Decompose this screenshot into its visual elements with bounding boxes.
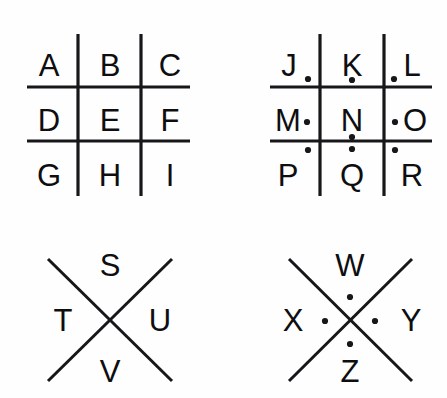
grid-dot-6 — [392, 119, 398, 125]
cipher-letter-b: B — [100, 48, 121, 83]
cipher-letter-w: W — [335, 248, 365, 283]
grid-dot-2 — [349, 77, 355, 83]
cipher-letter-i: I — [166, 158, 175, 193]
cipher-letter-o: O — [403, 103, 427, 138]
cipher-letter-j: J — [281, 48, 297, 83]
cipher-letter-h: H — [99, 158, 121, 193]
cipher-letter-m: M — [275, 103, 301, 138]
cross-dot-4 — [347, 341, 353, 347]
cross-dot-2 — [322, 318, 328, 324]
cipher-letter-c: C — [159, 48, 181, 83]
cipher-letter-e: E — [100, 103, 121, 138]
grid-plain-group: ABCDEFGHI — [27, 34, 190, 196]
cipher-letter-n: N — [341, 103, 363, 138]
cipher-letter-r: R — [401, 158, 423, 193]
grid-dot-8 — [349, 146, 355, 152]
grid-dot-1 — [305, 76, 311, 82]
cross-dot-3 — [372, 318, 378, 324]
grid-dot-3 — [391, 76, 397, 82]
figure-background — [0, 0, 447, 398]
cipher-letter-s: S — [100, 248, 121, 283]
grid-dot-4 — [304, 119, 310, 125]
cipher-letter-a: A — [39, 48, 60, 83]
grid-dot-7 — [305, 147, 311, 153]
cipher-letter-x: X — [283, 303, 304, 338]
grid-dot-9 — [392, 147, 398, 153]
cipher-letter-y: Y — [401, 303, 422, 338]
pigpen-cipher-figure: ABCDEFGHI JKLMNOPQR STUV WXYZ — [0, 0, 447, 398]
cipher-letter-u: U — [149, 303, 171, 338]
cipher-letter-p: P — [278, 158, 299, 193]
cipher-letter-l: L — [403, 48, 420, 83]
cross-dot-1 — [347, 294, 353, 300]
cipher-letter-g: G — [37, 158, 61, 193]
cipher-letter-t: T — [54, 303, 73, 338]
cipher-letter-q: Q — [340, 158, 364, 193]
grid-dotted-group: JKLMNOPQR — [270, 34, 432, 196]
cipher-canvas: ABCDEFGHI JKLMNOPQR STUV WXYZ — [0, 0, 447, 398]
grid-dot-5 — [349, 134, 355, 140]
cipher-letter-v: V — [100, 354, 121, 389]
cipher-letter-f: F — [161, 103, 180, 138]
cipher-letter-d: D — [38, 103, 60, 138]
cipher-letter-z: Z — [341, 354, 360, 389]
